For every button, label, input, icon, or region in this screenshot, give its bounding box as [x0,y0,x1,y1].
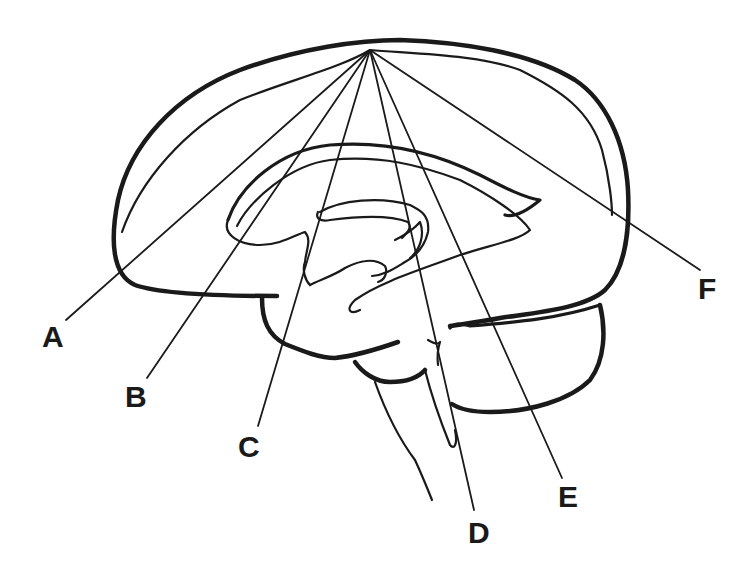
pons [355,362,425,382]
brainstem-upper [262,298,398,358]
brain-diagram [0,0,753,563]
label-e: E [558,482,578,512]
fornix [227,220,310,285]
leader-line-b [147,50,370,378]
corpus-callosum [228,144,540,220]
label-d: D [468,518,490,548]
thalamus-lower [317,212,409,238]
label-f: F [698,274,716,304]
cerebrum-outer-outline [114,40,629,326]
leader-line-d [370,50,474,510]
leader-line-c [258,50,370,426]
medulla-left [375,382,432,500]
label-a: A [42,322,64,352]
label-b: B [125,382,147,412]
label-c: C [238,432,260,462]
hypothalamus [310,261,386,285]
